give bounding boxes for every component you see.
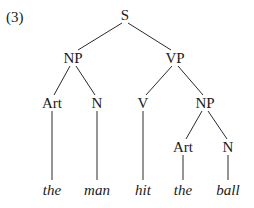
leaf-the-1: the [43, 183, 61, 198]
edge-np2-art [186, 111, 202, 139]
leaf-ball: ball [216, 183, 239, 198]
leaf-hit: hit [135, 183, 151, 198]
edge-s-vp [128, 23, 171, 50]
node-np: NP [63, 51, 82, 66]
leaf-the-2: the [174, 183, 192, 198]
edge-vp-v [146, 66, 172, 95]
leaf-man: man [84, 183, 110, 198]
tree-edges [0, 0, 254, 208]
edge-s-np [78, 23, 122, 50]
node-art: Art [42, 96, 62, 111]
node-art2: Art [173, 140, 193, 155]
node-v: V [138, 96, 149, 111]
node-n: N [92, 96, 103, 111]
edge-vp-np [178, 66, 203, 95]
edge-np-n [76, 66, 95, 95]
node-s: S [121, 8, 129, 23]
node-n2: N [223, 140, 234, 155]
node-vp: VP [165, 51, 184, 66]
edge-np-art [54, 66, 70, 95]
edge-np2-n [208, 111, 227, 139]
node-np2: NP [195, 96, 214, 111]
